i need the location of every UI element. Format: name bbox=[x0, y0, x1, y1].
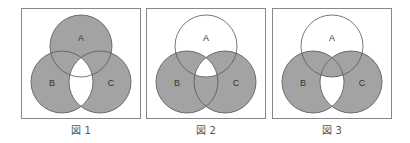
venn-diagram-1: A B C bbox=[21, 0, 143, 120]
label-c: C bbox=[359, 78, 366, 88]
label-a: A bbox=[329, 33, 335, 43]
figure-caption: 図 2 bbox=[146, 122, 266, 137]
venn-diagram-2: A B C bbox=[146, 0, 268, 120]
label-c: C bbox=[108, 78, 115, 88]
venn-figure-1: A B C 図 1 bbox=[21, 0, 145, 143]
label-b: B bbox=[49, 78, 55, 88]
label-a: A bbox=[203, 33, 209, 43]
label-c: C bbox=[233, 78, 240, 88]
label-b: B bbox=[174, 78, 180, 88]
venn-figure-3: A B C 図 3 bbox=[272, 0, 396, 143]
venn-figure-2: A B C 図 2 bbox=[146, 0, 270, 143]
figure-caption: 図 3 bbox=[272, 122, 392, 137]
figure-caption: 図 1 bbox=[21, 122, 141, 137]
label-a: A bbox=[78, 33, 84, 43]
label-b: B bbox=[300, 78, 306, 88]
venn-diagram-3: A B C bbox=[272, 0, 394, 120]
